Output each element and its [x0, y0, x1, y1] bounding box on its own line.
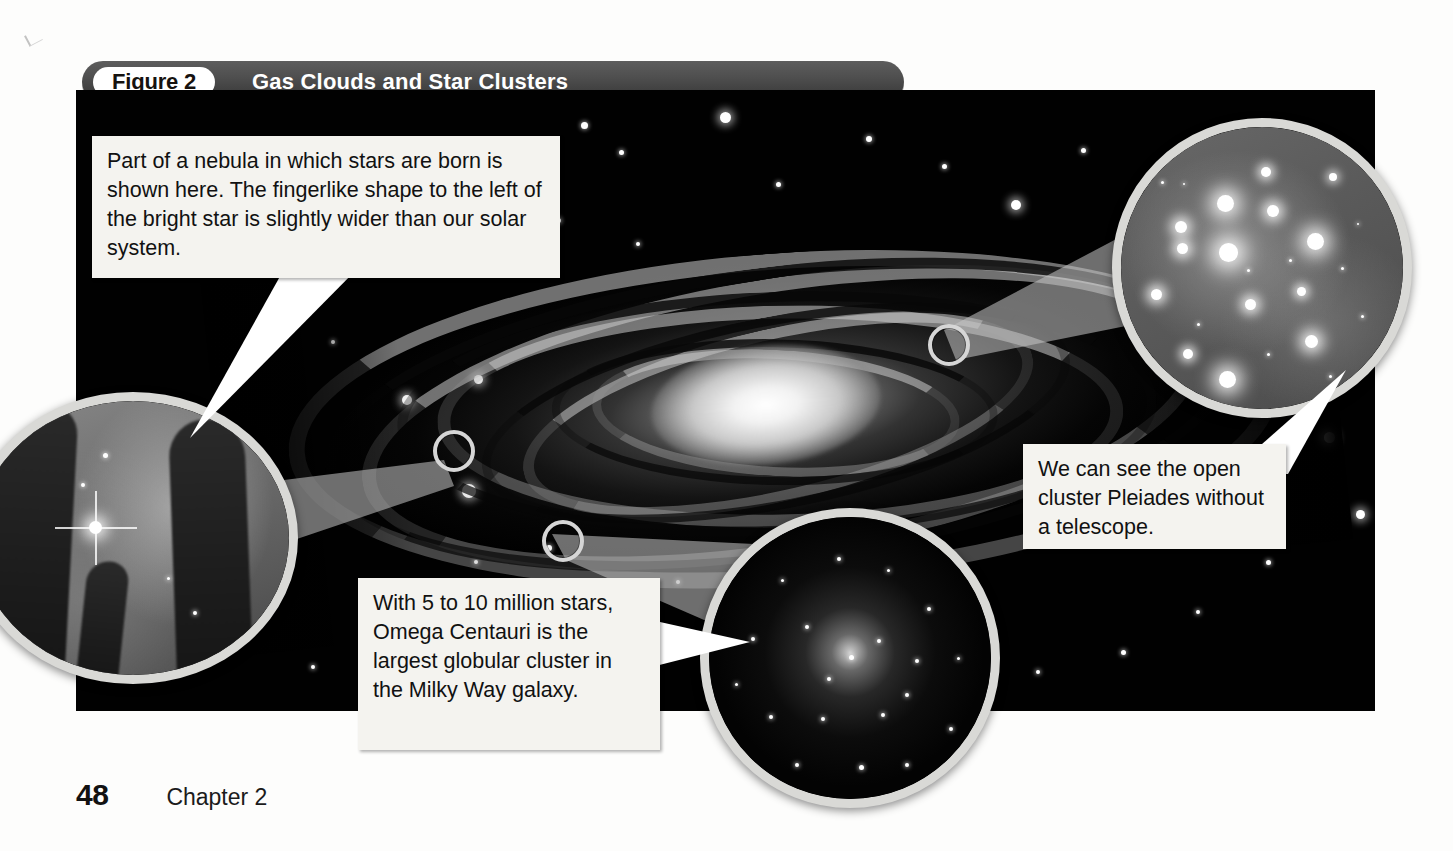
star-dot	[915, 659, 919, 663]
star-dot	[927, 607, 931, 611]
pleiades-star	[1219, 243, 1238, 262]
star-dot	[1266, 560, 1271, 565]
star-dot	[1289, 259, 1292, 262]
caption-omega-centauri: With 5 to 10 million stars, Omega Centau…	[358, 578, 660, 750]
star-dot	[887, 569, 890, 572]
page-number: 48	[76, 778, 108, 812]
pleiades-star	[1217, 195, 1234, 212]
star-dot	[167, 577, 170, 580]
star-dot	[949, 727, 953, 731]
pleiades-star	[1297, 287, 1306, 296]
star-dot	[905, 693, 909, 697]
star-dot	[795, 763, 799, 767]
star-dot	[1161, 181, 1164, 184]
nebula-pillar-right	[168, 418, 254, 675]
star-dot	[619, 150, 624, 155]
pleiades-star	[1307, 233, 1324, 250]
caption-nebula-text: Part of a nebula in which stars are born…	[107, 147, 546, 263]
pleiades-star	[1261, 167, 1271, 177]
star-dot	[1081, 148, 1086, 153]
source-marker-nebula[interactable]	[433, 430, 475, 472]
star-dot	[1197, 323, 1200, 326]
star-dot	[636, 242, 640, 246]
pleiades-star	[1245, 299, 1256, 310]
chapter-label: Chapter 2	[166, 784, 267, 811]
star-dot	[827, 677, 831, 681]
star-dot	[1196, 610, 1200, 614]
caption-pleiades-text: We can see the open cluster Pleiades wit…	[1038, 455, 1272, 542]
source-marker-pleiades[interactable]	[928, 324, 970, 366]
pleiades-star	[1175, 221, 1187, 233]
caption-pleiades: We can see the open cluster Pleiades wit…	[1023, 444, 1286, 549]
star-dot	[1011, 200, 1021, 210]
star-dot	[81, 483, 85, 487]
star-dot	[881, 713, 885, 717]
star-dot	[837, 557, 841, 561]
star-dot	[1357, 223, 1359, 225]
star-dot	[1361, 315, 1364, 318]
star-dot	[805, 625, 809, 629]
star-dot	[849, 655, 854, 660]
star-dot	[866, 136, 872, 142]
pleiades-star	[1183, 349, 1193, 359]
textbook-page: Figure 2 Gas Clouds and Star Clusters	[0, 0, 1453, 851]
caption-omega-centauri-text: With 5 to 10 million stars, Omega Centau…	[373, 589, 646, 705]
star-dot	[776, 182, 781, 187]
star-dot	[957, 657, 960, 660]
star-dot	[311, 665, 315, 669]
pleiades-star	[1177, 243, 1188, 254]
star-dot	[581, 122, 588, 129]
pointer-nebula	[168, 262, 368, 442]
caption-nebula: Part of a nebula in which stars are born…	[92, 136, 560, 278]
star-dot	[905, 763, 909, 767]
star-dot	[1036, 670, 1040, 674]
star-dot	[1341, 267, 1344, 270]
scan-artifact	[24, 29, 43, 47]
star-dot	[193, 611, 197, 615]
star-dot	[1356, 510, 1365, 519]
star-dot	[877, 639, 881, 643]
page-footer: 48 Chapter 2	[76, 778, 267, 812]
star-dot	[720, 112, 731, 123]
pleiades-star	[1329, 173, 1337, 181]
star-dot	[1267, 353, 1270, 356]
star-dot	[821, 717, 825, 721]
star-dot	[942, 164, 947, 169]
source-marker-globular[interactable]	[542, 520, 584, 562]
star-dot	[1247, 269, 1250, 272]
star-dot	[769, 715, 773, 719]
star-dot	[1183, 183, 1185, 185]
pleiades-star	[1151, 289, 1162, 300]
pleiades-star	[1305, 335, 1318, 348]
star-dot	[103, 453, 108, 458]
pleiades-star	[1267, 205, 1279, 217]
star-dot	[781, 579, 784, 582]
star-dot	[859, 765, 864, 770]
star-dot	[1121, 650, 1126, 655]
nebula-bright-star	[89, 521, 102, 534]
